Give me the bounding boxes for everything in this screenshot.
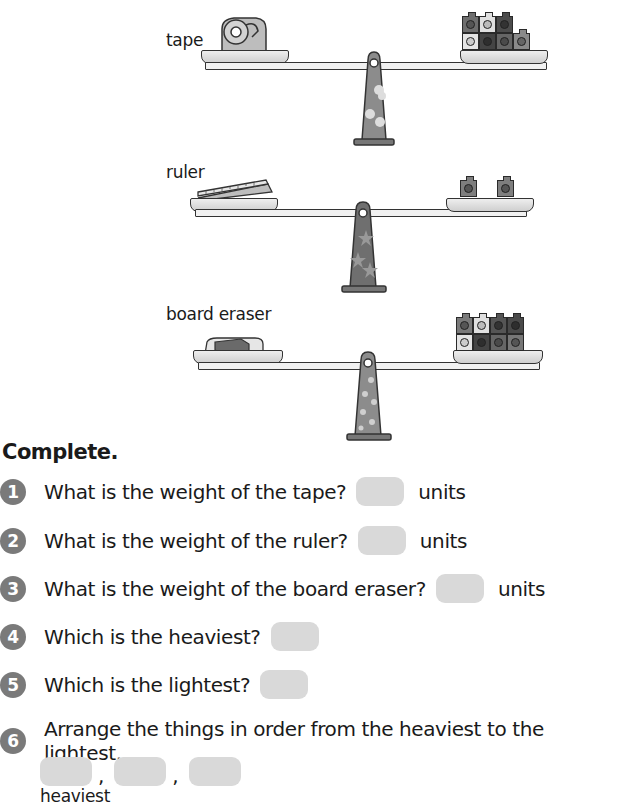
separator: ,: [172, 766, 178, 786]
cube: [496, 33, 513, 50]
cube: [507, 334, 524, 351]
unit-label: units: [420, 529, 467, 553]
answer-box-eraser-weight[interactable]: [436, 574, 484, 603]
question-number-badge: 4: [0, 624, 26, 650]
balance-ruler: ruler: [0, 150, 626, 300]
cube: [497, 180, 514, 197]
tape-dispenser-icon: [218, 15, 270, 53]
question-text: What is the weight of the board eraser?: [44, 577, 426, 601]
question-number-badge: 6: [0, 728, 26, 754]
ruler-icon: [196, 178, 276, 200]
answer-box-order-3[interactable]: [189, 757, 241, 786]
cube: [507, 317, 524, 334]
question-4: 4 Which is the heaviest?: [0, 622, 333, 651]
question-text: What is the weight of the tape?: [44, 480, 346, 504]
cube: [490, 317, 507, 334]
question-3: 3 What is the weight of the board eraser…: [0, 574, 545, 603]
answer-box-ruler-weight[interactable]: [358, 526, 406, 555]
answer-box-tape-weight[interactable]: [356, 477, 404, 506]
cube: [473, 317, 490, 334]
cube: [490, 334, 507, 351]
section-heading: Complete.: [2, 440, 118, 464]
answer-box-order-1[interactable]: [40, 757, 92, 786]
question-text: Which is the lightest?: [44, 673, 250, 697]
question-number-badge: 2: [0, 528, 26, 554]
pan-right: [453, 350, 543, 364]
balance-tape: tape: [0, 0, 626, 150]
answer-box-heaviest[interactable]: [271, 622, 319, 651]
cube-stack-tape: [462, 16, 530, 50]
order-answer-row: , ,: [40, 757, 241, 786]
balance-stand-blobs-icon: [350, 50, 398, 147]
question-1: 1 What is the weight of the tape? units: [0, 477, 466, 506]
cube: [456, 317, 473, 334]
cube: [479, 33, 496, 50]
separator: ,: [98, 766, 104, 786]
question-5: 5 Which is the lightest?: [0, 670, 322, 699]
heaviest-label: heaviest: [40, 786, 110, 806]
pan-right: [446, 198, 534, 212]
cube: [513, 33, 530, 50]
unit-label: units: [498, 577, 545, 601]
cube: [479, 16, 496, 33]
question-number-badge: 1: [0, 479, 26, 505]
question-text: What is the weight of the ruler?: [44, 529, 348, 553]
question-text: Which is the heaviest?: [44, 625, 261, 649]
cube: [462, 33, 479, 50]
question-2: 2 What is the weight of the ruler? units: [0, 526, 467, 555]
cube: [473, 334, 490, 351]
label-tape: tape: [166, 30, 203, 50]
pan-right: [460, 50, 548, 64]
balance-stand-flowers-icon: [345, 350, 393, 445]
cube: [460, 180, 477, 197]
answer-box-order-2[interactable]: [114, 757, 166, 786]
balance-board-eraser: board eraser: [0, 300, 626, 445]
answer-box-lightest[interactable]: [260, 670, 308, 699]
cube: [462, 16, 479, 33]
cube: [496, 16, 513, 33]
balance-stand-stars-icon: [340, 200, 388, 295]
question-number-badge: 5: [0, 672, 26, 698]
cube-stack-ruler: [460, 180, 514, 197]
question-number-badge: 3: [0, 576, 26, 602]
cube-stack-board-eraser: [456, 317, 524, 351]
unit-label: units: [418, 480, 465, 504]
cube: [456, 334, 473, 351]
label-board-eraser: board eraser: [166, 304, 271, 324]
